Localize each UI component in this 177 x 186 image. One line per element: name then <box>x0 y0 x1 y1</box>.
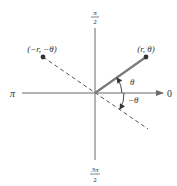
axis-label-pi: π <box>10 88 16 99</box>
axis-label-bottom-numerator: 3π <box>90 166 99 174</box>
point-label-neg-r-neg-theta: (−r, −θ) <box>27 44 57 54</box>
axis-label-top-numerator: π <box>93 9 97 17</box>
point-r-theta <box>144 55 149 60</box>
point-neg-r-neg-theta <box>41 55 46 60</box>
solid-ray <box>95 57 146 93</box>
angle-label-theta: θ <box>130 77 135 87</box>
angle-label-neg-theta: −θ <box>128 95 139 105</box>
axis-label-bottom-denominator: 2 <box>93 176 97 184</box>
polar-diagram: 0 π π 2 3π 2 (r, θ) (−r, −θ) θ −θ <box>0 0 177 186</box>
theta-arc <box>117 78 122 93</box>
axis-label-top-denominator: 2 <box>93 18 97 26</box>
neg-theta-arc <box>120 93 124 109</box>
axis-label-zero: 0 <box>167 88 172 99</box>
point-label-r-theta: (r, θ) <box>137 44 154 54</box>
